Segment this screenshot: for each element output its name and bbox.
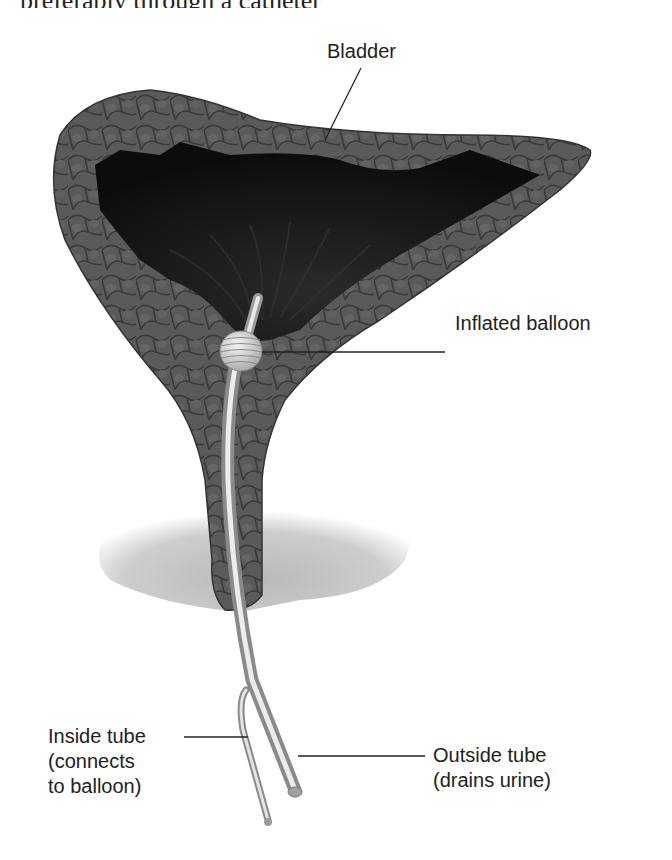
label-outside-tube: Outside tube (drains urine) — [433, 743, 551, 793]
label-outside-tube-line2: (drains urine) — [433, 768, 551, 793]
bladder-leader-line — [325, 68, 361, 140]
label-outside-tube-line1: Outside tube — [433, 743, 551, 768]
label-inside-tube-line3: to balloon) — [48, 774, 146, 799]
label-inside-tube-line1: Inside tube — [48, 724, 146, 749]
inflated-balloon — [220, 331, 262, 371]
label-inside-tube-line2: (connects — [48, 749, 146, 774]
label-bladder: Bladder — [327, 39, 396, 64]
label-inflated-balloon: Inflated balloon — [455, 311, 591, 336]
outside-tube-end — [288, 787, 302, 797]
label-inside-tube: Inside tube (connects to balloon) — [48, 724, 146, 799]
